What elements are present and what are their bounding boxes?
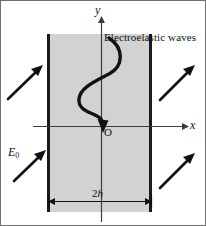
field-subscript: 0 (15, 151, 19, 160)
thickness-label: 2h (92, 188, 103, 199)
electroelastic-waves-figure: y x O E0 2h Electroelastic waves (0, 0, 206, 226)
origin-label: O (104, 127, 112, 138)
x-axis-label: x (190, 119, 195, 131)
applied-field-label: E0 (8, 146, 19, 160)
y-axis-label: y (95, 4, 100, 16)
electroelastic-waves-caption: Electroelastic waves (104, 32, 196, 43)
thickness-symbol: h (98, 187, 104, 199)
